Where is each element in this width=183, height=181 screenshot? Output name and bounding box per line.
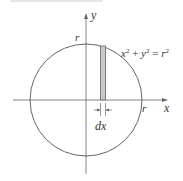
circle-strip-diagram: y x r r dx x2 + y2 = r2 (0, 0, 183, 181)
radius-label-right: r (142, 102, 147, 114)
top-rule (10, 0, 103, 2)
dx-left-arrow-icon (97, 109, 101, 112)
y-axis (84, 13, 88, 174)
dx-right-arrow-icon (106, 109, 110, 112)
y-axis-arrow-icon (84, 13, 88, 19)
dx-label: dx (95, 119, 107, 133)
circle-equation-label: x2 + y2 = r2 (120, 47, 170, 59)
dx-marker (94, 103, 112, 116)
vertical-strip (101, 46, 106, 100)
radius-label-top: r (75, 31, 80, 43)
x-axis-label: x (163, 101, 170, 115)
y-axis-label: y (90, 8, 97, 22)
